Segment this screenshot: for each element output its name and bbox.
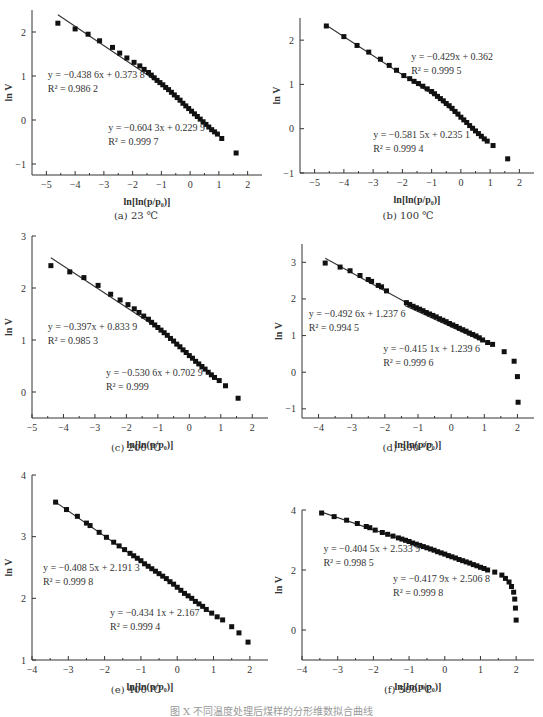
y-tick-label: 1 (21, 71, 26, 82)
data-point (348, 268, 353, 273)
data-point (491, 143, 496, 148)
data-point (391, 534, 396, 539)
sub-caption-f: (f) 500 ℃ (272, 684, 543, 695)
data-point (236, 630, 241, 635)
data-point (384, 288, 389, 293)
y-tick-label: 3 (21, 231, 26, 242)
data-point (117, 51, 122, 56)
data-point (236, 396, 241, 401)
x-tick-label: −4 (58, 422, 69, 433)
sub-caption-b: (b) 100 ℃ (272, 210, 543, 221)
x-tick-label: −1 (404, 664, 415, 675)
data-point (88, 523, 93, 528)
x-tick-label: 0 (175, 664, 180, 675)
data-point (122, 547, 127, 552)
data-point (124, 55, 129, 60)
fit-r-squared: R² = 0.998 5 (323, 557, 373, 568)
data-point (505, 156, 510, 161)
data-point (111, 540, 116, 545)
y-tick-label: 2 (291, 293, 296, 304)
x-tick-label: −4 (297, 664, 308, 675)
fit-equation: y = −0.404 5x + 2.533 9 (323, 543, 420, 554)
chart-d: −4−3−2−1012−10123ln[ln(p/p₀)]ln Vy = −0.… (272, 230, 543, 445)
fit-r-squared: R² = 0.999 7 (108, 136, 158, 147)
data-point (485, 139, 490, 144)
y-tick-label: 4 (21, 470, 26, 481)
data-point (117, 543, 122, 548)
chart-a: −5−4−3−2−1012−1012ln[ln(p/p₀)]ln Vy = −0… (0, 0, 272, 215)
x-tick-label: −5 (309, 177, 320, 188)
fit-r-squared: R² = 0.999 8 (43, 576, 93, 587)
data-point (220, 617, 225, 622)
data-point (81, 275, 86, 280)
x-tick-label: 0 (187, 422, 192, 433)
fit-equation: y = −0.604 3x + 0.229 9 (108, 122, 205, 133)
y-axis-title: ln V (3, 317, 14, 336)
chart-e: −4−3−2−10121234ln[ln(p/p₀)]ln Vy = −0.40… (0, 465, 272, 680)
x-tick-label: 1 (218, 422, 223, 433)
data-point (412, 79, 417, 84)
chart-b: −5−4−3−2−1012−1012ln[ln(p/p₀)]ln Vy = −0… (272, 0, 543, 215)
data-point (341, 34, 346, 39)
data-point (48, 263, 53, 268)
fit-equation: y = −0.438 6x + 0.373 8 (48, 69, 145, 80)
y-tick-label: 0 (289, 123, 294, 134)
data-point (387, 63, 392, 68)
x-tick-label: 1 (478, 664, 483, 675)
data-point (219, 136, 224, 141)
x-tick-label: −1 (156, 179, 167, 190)
sub-caption-d: (d) 300 ℃ (272, 442, 543, 453)
data-point (516, 400, 521, 405)
y-tick-label: 1 (21, 655, 26, 666)
fit-equation: y = −0.492 6x + 1.237 6 (309, 308, 406, 319)
x-tick-label: −2 (368, 664, 379, 675)
data-point (355, 521, 360, 526)
data-point (358, 273, 363, 278)
y-tick-label: 0 (291, 367, 296, 378)
x-tick-label: −3 (99, 179, 110, 190)
x-tick-label: 2 (515, 422, 520, 433)
data-point (136, 310, 141, 315)
data-point (110, 45, 115, 50)
x-tick-label: −1 (413, 422, 424, 433)
x-tick-label: 1 (211, 664, 216, 675)
x-tick-label: −3 (90, 422, 101, 433)
data-point (67, 269, 72, 274)
data-point (380, 530, 385, 535)
data-point (97, 38, 102, 43)
chart-f: −4−3−2−1012024ln[ln(p/p₀)]ln Vy = −0.404… (272, 465, 543, 680)
chart-panel-c: −5−4−3−2−10120123ln[ln(p/p₀)]ln Vy = −0.… (0, 230, 272, 460)
data-point (512, 359, 517, 364)
y-tick-label: 1 (291, 330, 296, 341)
data-point (369, 279, 374, 284)
data-point (513, 606, 518, 611)
fit-equation: y = −0.408 5x + 2.191 3 (43, 562, 140, 573)
y-tick-label: 0 (21, 115, 26, 126)
data-point (217, 378, 222, 383)
data-point (132, 306, 137, 311)
x-tick-label: 1 (482, 422, 487, 433)
fit-r-squared: R² = 0.986 2 (48, 83, 98, 94)
fit-r-squared: R² = 0.999 5 (411, 65, 461, 76)
data-point (215, 132, 220, 137)
data-point (425, 86, 430, 91)
y-tick-label: −1 (285, 403, 296, 414)
y-tick-label: 0 (21, 387, 26, 398)
data-point (480, 337, 485, 342)
x-tick-label: 1 (488, 177, 493, 188)
x-tick-label: −2 (397, 177, 408, 188)
data-point (367, 525, 372, 530)
data-point (407, 76, 412, 81)
x-tick-label: −2 (127, 179, 138, 190)
sub-caption-a: (a) 23 ℃ (0, 210, 272, 221)
data-point (108, 292, 113, 297)
x-tick-label: −5 (41, 179, 52, 190)
data-point (323, 261, 328, 266)
x-tick-label: −3 (63, 664, 74, 675)
sub-caption-c: (c) 200 ℃ (0, 442, 272, 453)
fit-r-squared: R² = 0.999 8 (393, 587, 443, 598)
x-tick-label: −1 (426, 177, 437, 188)
y-tick-label: 3 (291, 257, 296, 268)
x-axis-title: ln[ln(p/p₀)] (394, 194, 441, 206)
data-point (212, 375, 217, 380)
